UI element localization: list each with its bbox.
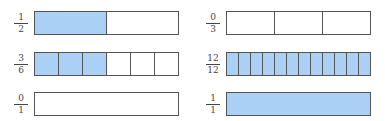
denominator: 3 [206, 24, 220, 34]
numerator: 1 [14, 13, 28, 24]
numerator: 3 [14, 54, 28, 65]
denominator: 2 [14, 24, 28, 34]
unshaded-part [155, 53, 178, 75]
fraction-bar [34, 11, 179, 35]
unshaded-part [131, 53, 155, 75]
unshaded-part [107, 12, 178, 34]
denominator: 12 [206, 65, 220, 75]
shaded-part [275, 53, 287, 75]
shaded-part [35, 12, 107, 34]
shaded-part [227, 93, 370, 115]
fraction-label: 11 [206, 94, 220, 115]
fraction-bar [34, 52, 179, 76]
unshaded-part [275, 12, 323, 34]
shaded-part [287, 53, 299, 75]
numerator: 0 [206, 13, 220, 24]
shaded-part [83, 53, 107, 75]
shaded-part [299, 53, 311, 75]
unshaded-part [323, 12, 370, 34]
unshaded-part [107, 53, 131, 75]
fraction-label: 12 [14, 13, 28, 34]
shaded-part [251, 53, 263, 75]
numerator: 12 [206, 54, 220, 65]
shaded-part [323, 53, 335, 75]
shaded-part [311, 53, 323, 75]
shaded-part [239, 53, 251, 75]
unshaded-part [35, 93, 178, 115]
fraction-bar [34, 92, 179, 116]
fraction-bar [226, 11, 371, 35]
fraction-label: 36 [14, 54, 28, 75]
numerator: 1 [206, 94, 220, 105]
fraction-label: 1212 [206, 54, 220, 75]
numerator: 0 [14, 94, 28, 105]
fraction-bar [226, 52, 371, 76]
denominator: 1 [206, 105, 220, 115]
shaded-part [227, 53, 239, 75]
shaded-part [35, 53, 59, 75]
shaded-part [335, 53, 347, 75]
fraction-label: 01 [14, 94, 28, 115]
fraction-bar [226, 92, 371, 116]
fraction-label: 03 [206, 13, 220, 34]
shaded-part [347, 53, 359, 75]
unshaded-part [227, 12, 275, 34]
shaded-part [359, 53, 370, 75]
denominator: 1 [14, 105, 28, 115]
shaded-part [263, 53, 275, 75]
denominator: 6 [14, 65, 28, 75]
shaded-part [59, 53, 83, 75]
